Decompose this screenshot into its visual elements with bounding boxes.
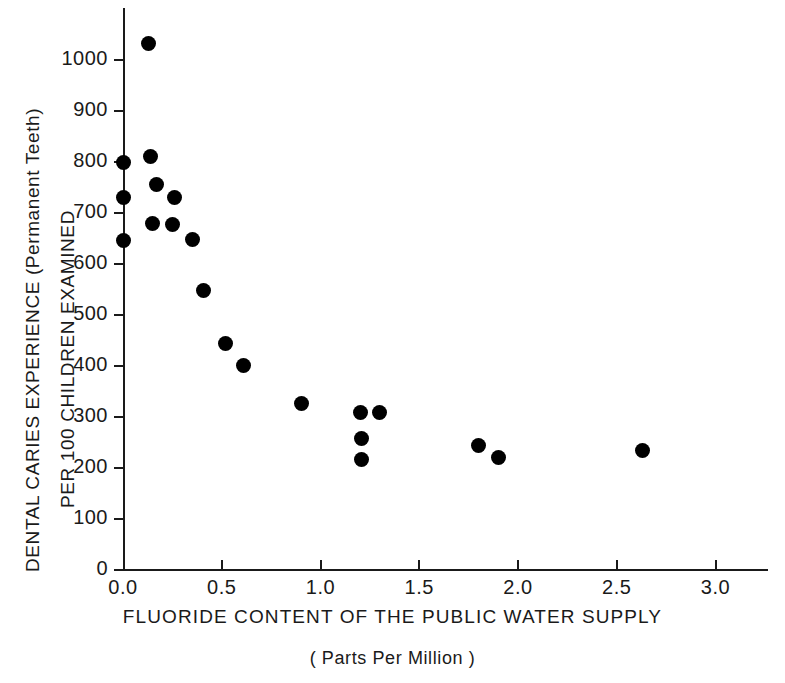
y-tick-mark xyxy=(114,212,123,214)
y-axis-title: DENTAL CARIES EXPERIENCE (Permanent Teet… xyxy=(22,108,44,572)
y-tick-mark xyxy=(114,467,123,469)
data-point xyxy=(294,396,309,411)
x-axis-title: FLUORIDE CONTENT OF THE PUBLIC WATER SUP… xyxy=(0,606,785,628)
x-tick-label: 0.0 xyxy=(88,576,158,599)
scatter-plot-figure: 01002003004005006007008009001000 0.00.51… xyxy=(0,0,785,683)
x-tick-mark xyxy=(616,560,618,569)
data-point xyxy=(354,452,369,467)
x-tick-label: 1.5 xyxy=(384,576,454,599)
data-point xyxy=(354,431,369,446)
x-tick-label: 2.0 xyxy=(483,576,553,599)
data-point xyxy=(149,177,164,192)
y-tick-mark xyxy=(114,314,123,316)
x-tick-mark xyxy=(418,560,420,569)
data-point xyxy=(635,443,650,458)
y-axis-subtitle: PER 100 CHILDREN EXAMINED xyxy=(57,210,79,508)
data-point xyxy=(218,336,233,351)
y-tick-mark xyxy=(114,518,123,520)
x-axis-units-label: ( Parts Per Million ) xyxy=(0,648,785,669)
y-tick-mark xyxy=(114,416,123,418)
x-tick-label: 2.5 xyxy=(582,576,652,599)
data-point xyxy=(116,233,131,248)
data-point xyxy=(143,149,158,164)
x-tick-mark xyxy=(517,560,519,569)
x-tick-label: 0.5 xyxy=(187,576,257,599)
x-tick-mark xyxy=(715,560,717,569)
data-point xyxy=(236,358,251,373)
data-point xyxy=(491,450,506,465)
data-point xyxy=(141,36,156,51)
x-tick-mark xyxy=(221,560,223,569)
y-tick-mark xyxy=(114,365,123,367)
data-point xyxy=(116,190,131,205)
data-point xyxy=(165,217,180,232)
data-point xyxy=(372,405,387,420)
x-tick-label: 3.0 xyxy=(681,576,751,599)
data-point xyxy=(116,155,131,170)
data-point xyxy=(167,190,182,205)
x-tick-label: 1.0 xyxy=(286,576,356,599)
data-point xyxy=(471,438,486,453)
data-point xyxy=(185,232,200,247)
x-tick-mark xyxy=(320,560,322,569)
y-tick-mark xyxy=(114,110,123,112)
data-point xyxy=(353,405,368,420)
y-tick-mark xyxy=(114,59,123,61)
y-tick-mark xyxy=(114,263,123,265)
x-axis-line xyxy=(123,569,768,571)
data-point xyxy=(196,283,211,298)
y-tick-mark xyxy=(114,569,123,571)
y-tick-label: 1000 xyxy=(28,47,108,70)
y-axis-line xyxy=(123,8,125,571)
data-point xyxy=(145,216,160,231)
